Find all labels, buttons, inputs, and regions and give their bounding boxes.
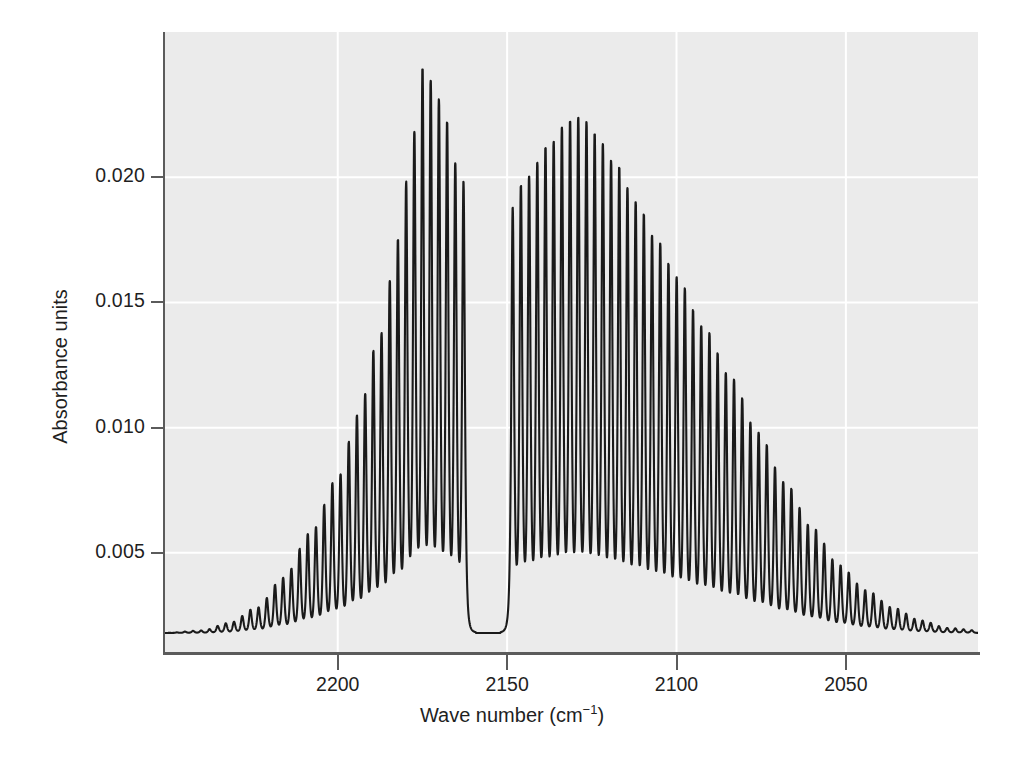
x-tick-mark <box>676 655 678 670</box>
y-axis-title: Absorbance units <box>49 267 72 467</box>
y-tick-mark <box>151 427 164 429</box>
x-axis-title-tail: ) <box>597 704 604 726</box>
spectrum-figure: 0.0050.0100.0150.020 2200215021002050 Ab… <box>0 0 1024 758</box>
x-tick-label: 2100 <box>632 673 722 696</box>
x-tick-label: 2200 <box>293 673 383 696</box>
x-tick-mark <box>506 655 508 670</box>
x-tick-mark <box>845 655 847 670</box>
y-tick-mark <box>151 552 164 554</box>
y-tick-mark <box>151 301 164 303</box>
y-tick-mark <box>151 176 164 178</box>
y-tick-label: 0.005 <box>95 540 145 563</box>
y-tick-label: 0.010 <box>95 415 145 438</box>
plot-area <box>165 32 978 653</box>
spectrum-plot-svg <box>165 32 978 653</box>
x-tick-label: 2150 <box>462 673 552 696</box>
spectrum-trace <box>165 70 978 633</box>
x-axis-unit-exponent: −1 <box>583 702 598 717</box>
x-tick-mark <box>337 655 339 670</box>
x-axis-title: Wave number (cm−1) <box>0 702 1024 727</box>
y-tick-label: 0.020 <box>95 164 145 187</box>
x-axis-title-text: Wave number (cm <box>420 704 583 726</box>
y-tick-label: 0.015 <box>95 289 145 312</box>
x-tick-label: 2050 <box>801 673 891 696</box>
x-axis-spine <box>163 652 980 655</box>
y-axis-spine <box>163 32 165 653</box>
